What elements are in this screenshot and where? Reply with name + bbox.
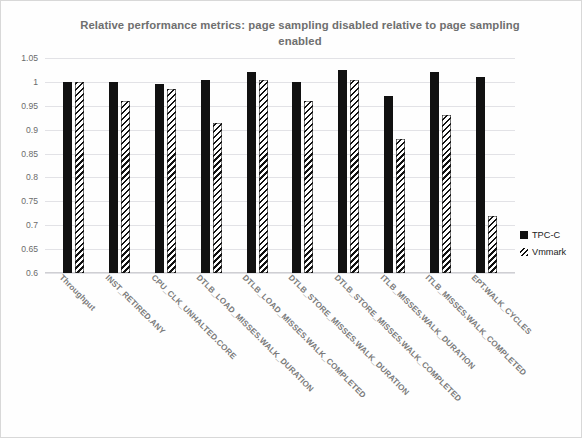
bar: [201, 80, 210, 274]
y-axis-tick-label: 0.6: [4, 268, 38, 278]
legend-swatch-icon: [520, 248, 528, 256]
y-axis-tick-label: 1: [4, 77, 38, 87]
y-axis-tick-label: 0.9: [4, 125, 38, 135]
bar: [121, 101, 130, 273]
legend-item-tpcc: TPC-C: [520, 226, 566, 243]
bar: [442, 115, 451, 273]
bar-group: [372, 58, 418, 273]
chart-legend: TPC-C Vmmark: [520, 226, 566, 260]
legend-item-vmmark: Vmmark: [520, 243, 566, 260]
x-axis-tick-label: ITLB_MISSES.WALK_DURATION: [378, 273, 476, 371]
bar-group: [326, 58, 372, 273]
legend-swatch-icon: [520, 231, 528, 239]
legend-label: Vmmark: [532, 247, 566, 257]
bar: [109, 82, 118, 273]
bar-group: [143, 58, 189, 273]
bar: [396, 139, 405, 273]
bar-group: [97, 58, 143, 273]
bar: [167, 89, 176, 273]
x-axis-tick-label: ITLB_MISSES.WALK_COMPLETED: [424, 273, 528, 377]
chart-frame: Relative performance metrics: page sampl…: [0, 0, 582, 438]
bar: [75, 82, 84, 273]
bar-group: [463, 58, 509, 273]
y-axis-tick-label: 0.7: [4, 220, 38, 230]
x-axis-tick-label: Throughput: [58, 273, 98, 313]
bar: [488, 216, 497, 273]
legend-label: TPC-C: [532, 230, 560, 240]
bar: [292, 82, 301, 273]
bar: [338, 70, 347, 273]
y-axis-tick-label: 0.85: [4, 149, 38, 159]
x-axis-tick-label: CPU_CLK_UNHALTED.CORE: [149, 273, 237, 361]
bar-group: [51, 58, 97, 273]
bar: [213, 123, 222, 274]
plot-area: 1.0510.950.90.850.80.750.70.650.6: [45, 58, 515, 273]
bar: [384, 96, 393, 273]
bar-group: [280, 58, 326, 273]
bar: [155, 84, 164, 273]
y-axis-tick-label: 0.65: [4, 244, 38, 254]
page-title: Relative performance metrics: page sampl…: [65, 17, 535, 50]
bar: [259, 80, 268, 274]
y-axis-tick-label: 0.95: [4, 101, 38, 111]
bar: [430, 72, 439, 273]
y-axis-tick-label: 1.05: [4, 53, 38, 63]
bar: [63, 82, 72, 273]
bar: [350, 80, 359, 274]
y-axis-tick-label: 0.75: [4, 196, 38, 206]
y-axis-tick-label: 0.8: [4, 172, 38, 182]
bar: [247, 72, 256, 273]
bar: [304, 101, 313, 273]
bar-group: [188, 58, 234, 273]
bar-group: [234, 58, 280, 273]
x-axis-labels: ThroughputINST_RETIRED.ANYCPU_CLK_UNHALT…: [45, 273, 515, 423]
bar-group: [417, 58, 463, 273]
bar: [476, 77, 485, 273]
bar-series-container: [45, 58, 515, 273]
